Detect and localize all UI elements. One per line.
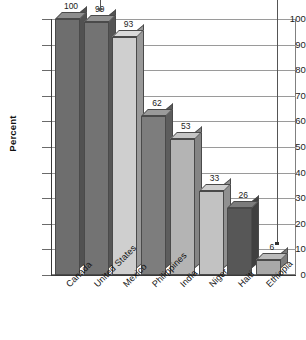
bar-front-face [112, 37, 137, 275]
bar-haiti [227, 201, 252, 275]
bar-front-face [55, 19, 80, 275]
bar-value-label: 93 [108, 19, 148, 29]
annotation-leader-endpoint [275, 242, 279, 245]
bar-value-label: 62 [137, 98, 177, 108]
bar-front-face [84, 22, 109, 275]
bar-philippines [141, 109, 166, 275]
bar-value-label: 53 [166, 121, 206, 131]
bar-mexico [112, 30, 137, 275]
bar-front-face [199, 191, 224, 275]
bar-united-states [84, 15, 109, 275]
bar-chart: 1009080706050403020100 Percent 100999362… [0, 0, 306, 340]
annotation-leader-line [277, 0, 278, 244]
bar-value-label: 33 [195, 173, 235, 183]
bar-canada [55, 12, 80, 275]
bar-front-face [227, 208, 252, 275]
bars-group: 1009993625333266 [0, 0, 306, 340]
bar-niger [199, 184, 224, 275]
bar-front-face [141, 116, 166, 275]
annotation-arrow-head [97, 8, 103, 12]
bar-value-label: 26 [223, 190, 263, 200]
bar-value-label: 6 [252, 242, 292, 252]
